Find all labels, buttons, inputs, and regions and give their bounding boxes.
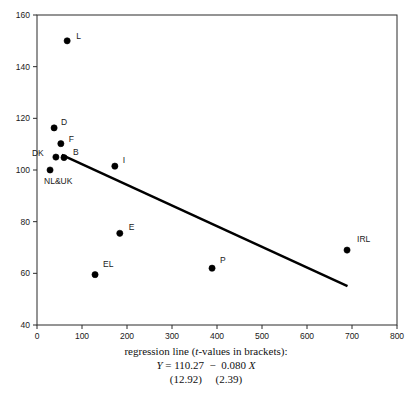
data-point-marker [61, 155, 67, 161]
y-tick-label: 140 [16, 62, 30, 72]
x-tick-label: 800 [390, 331, 404, 340]
data-point-marker [51, 125, 57, 131]
equation-x-symbol: X [249, 359, 256, 371]
data-point-marker [53, 154, 59, 160]
x-tick-label: 200 [120, 331, 134, 340]
plot-svg: 406080100120140160 010020030040050060070… [0, 0, 412, 340]
data-point-label: NL&UK [44, 176, 73, 186]
y-tick-label: 80 [21, 217, 31, 227]
caption-text-post: -values in brackets): [198, 345, 287, 357]
caption-equation: Y = 110.27 − 0.080 X [0, 359, 412, 373]
data-point-label: E [129, 222, 135, 232]
data-point-label: EL [103, 259, 114, 269]
data-point-marker [112, 163, 118, 169]
figure-container: 406080100120140160 010020030040050060070… [0, 0, 412, 400]
data-point-label: I [123, 155, 125, 165]
data-point-marker [344, 247, 350, 253]
x-tick-label: 700 [345, 331, 359, 340]
data-point-marker [64, 38, 70, 44]
data-point-label: L [76, 31, 81, 41]
y-tick-label: 40 [21, 320, 31, 330]
data-point-label: IRL [357, 234, 371, 244]
data-point-marker [47, 167, 53, 173]
x-tick-label: 0 [35, 331, 40, 340]
chart-caption: regression line (t-values in brackets): … [0, 345, 412, 386]
y-tick-label: 60 [21, 268, 31, 278]
data-point-label: D [61, 117, 67, 127]
plot-background [0, 0, 412, 340]
y-tick-label: 120 [16, 113, 30, 123]
caption-tvalues: (12.92) (2.39) [0, 373, 412, 387]
data-point-marker [209, 265, 215, 271]
x-tick-label: 400 [210, 331, 224, 340]
data-point-marker [58, 141, 64, 147]
y-tick-label: 100 [16, 165, 30, 175]
data-point-label: P [220, 255, 226, 265]
data-point-label: DK [32, 148, 44, 158]
caption-line-regression: regression line (t-values in brackets): [0, 345, 412, 359]
data-point-label: B [73, 147, 79, 157]
x-tick-label: 300 [165, 331, 179, 340]
caption-text-pre: regression line ( [124, 345, 195, 357]
data-point-marker [117, 230, 123, 236]
x-tick-label: 100 [75, 331, 89, 340]
x-tick-label: 500 [255, 331, 269, 340]
data-point-marker [92, 272, 98, 278]
data-point-label: F [69, 134, 74, 144]
equation-body: = 110.27 − 0.080 [163, 359, 249, 371]
scatter-plot: 406080100120140160 010020030040050060070… [0, 0, 412, 340]
y-tick-label: 160 [16, 10, 30, 20]
x-tick-label: 600 [300, 331, 314, 340]
